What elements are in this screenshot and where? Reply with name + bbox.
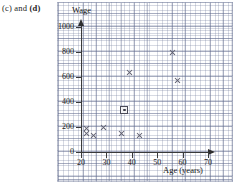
x-axis-tick-label: 30	[102, 159, 110, 167]
y-axis-tick	[76, 27, 82, 28]
x-axis-tick-label: 40	[128, 159, 136, 167]
data-point-cross	[169, 49, 176, 56]
y-axis-tick-label: 200	[62, 123, 74, 131]
x-axis-tick	[208, 152, 209, 158]
data-point-cross	[174, 77, 181, 84]
figure-container: (c) and (d) Wage Age (years) 02004006008…	[0, 0, 235, 185]
y-axis-tick	[76, 102, 82, 103]
scatter-plot: Wage Age (years) 02004006008001000203040…	[0, 0, 235, 185]
x-axis-tick	[106, 152, 107, 158]
x-axis-tick-label: 20	[77, 159, 85, 167]
x-axis-title: Age (years)	[163, 166, 203, 175]
y-axis-title: Wage	[72, 6, 91, 15]
data-point-cross	[136, 132, 143, 139]
x-axis-arrow-icon	[208, 149, 215, 155]
y-axis-tick	[76, 127, 82, 128]
x-axis-tick	[157, 152, 158, 158]
data-point-cross	[90, 132, 97, 139]
data-point-cross	[126, 69, 133, 76]
data-point-cross	[100, 124, 107, 131]
x-axis-tick-label: 70	[204, 159, 212, 167]
x-axis-tick	[183, 152, 184, 158]
x-axis-tick-label: 50	[153, 159, 161, 167]
y-axis-tick-label: 600	[62, 73, 74, 81]
y-axis-tick	[76, 52, 82, 53]
y-axis-tick	[76, 77, 82, 78]
x-axis-tick	[132, 152, 133, 158]
y-axis-tick-label: 800	[62, 48, 74, 56]
y-axis-arrow-icon	[78, 19, 84, 26]
x-axis-tick-label: 60	[179, 159, 187, 167]
y-axis-tick-label: 400	[62, 98, 74, 106]
y-axis-tick-label: 0	[70, 148, 74, 156]
data-point-cross	[83, 130, 90, 137]
data-point-cross	[118, 130, 125, 137]
mean-point-dot	[123, 109, 126, 112]
x-axis-line	[81, 152, 213, 153]
y-axis-tick-label: 1000	[58, 23, 74, 31]
x-axis-tick	[81, 152, 82, 158]
data-point-mean	[120, 106, 128, 114]
